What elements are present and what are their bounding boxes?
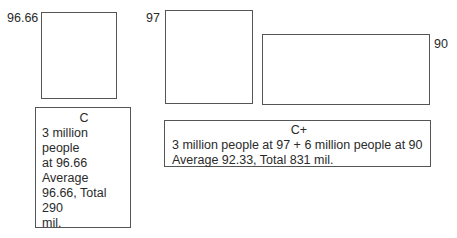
box-97 <box>165 10 253 104</box>
box-96-66 <box>41 12 117 99</box>
value-label-96-66: 96.66 <box>7 11 38 25</box>
grade-title-c-plus: C+ <box>172 123 426 138</box>
desc-line: mil. <box>42 216 126 231</box>
value-label-90: 90 <box>434 37 448 51</box>
value-label-97: 97 <box>146 11 160 25</box>
desc-line: 96.66, Total 290 <box>42 186 126 216</box>
box-90 <box>262 34 430 105</box>
grade-title-c: C <box>42 111 126 126</box>
desc-line: at 96.66 <box>42 156 126 171</box>
desc-line: 3 million people <box>42 126 126 156</box>
desc-line: Average <box>42 171 126 186</box>
desc-line: 3 million people at 97 + 6 million peopl… <box>172 138 426 153</box>
description-box-c-plus: C+ 3 million people at 97 + 6 million pe… <box>164 120 431 167</box>
description-box-c: C 3 million people at 96.66 Average 96.6… <box>35 107 131 228</box>
desc-line: Average 92.33, Total 831 mil. <box>172 153 426 168</box>
